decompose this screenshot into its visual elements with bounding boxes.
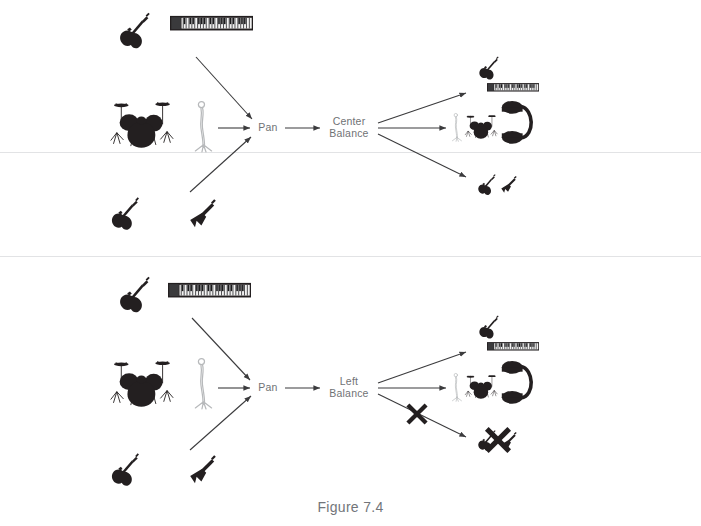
output-top-guitar-keyboard [479, 56, 539, 91]
figure-page: Pan Center Balance Pan Left Balance Figu… [0, 0, 701, 526]
output-center-drums-mic-headphones [452, 101, 531, 144]
output-guitar-icon [479, 315, 498, 338]
output-bottom-guitars [478, 174, 516, 195]
output-top-guitar-keyboard [479, 315, 539, 350]
output-center-drums-mic-headphones [452, 361, 531, 404]
output-headphones-icon [502, 361, 531, 404]
flying-v-guitar-icon [190, 199, 216, 227]
arrow-guitar-keyboard-to-pan [192, 318, 250, 380]
output-headphones-icon [502, 101, 531, 144]
pan-label-top: Pan [250, 121, 286, 133]
output-flying-v-icon [501, 176, 516, 193]
microphone-stand-icon [195, 359, 211, 409]
electric-guitar-icon [120, 277, 150, 313]
arrow-guitars-to-pan [190, 137, 251, 192]
mute-x-icon-output [487, 429, 509, 451]
output-bottom-guitars [478, 429, 516, 451]
arrow-balance-to-output-top [378, 352, 466, 383]
arrow-guitar-keyboard-to-pan [196, 57, 252, 119]
keyboard-icon [168, 283, 251, 298]
keyboard-icon [170, 16, 253, 31]
center-balance-label: Center Balance [319, 115, 379, 139]
arrow-balance-to-output-top [378, 93, 466, 123]
output-keyboard-icon [487, 83, 539, 91]
bass-guitar-icon [112, 197, 139, 229]
left-balance-label: Left Balance [319, 375, 379, 399]
arrow-guitars-to-pan [190, 396, 251, 450]
diagram-canvas [0, 0, 701, 526]
output-keyboard-icon [487, 342, 539, 350]
output-bass-guitar-icon [478, 174, 495, 195]
bass-guitar-icon [112, 453, 139, 485]
electric-guitar-icon [120, 13, 150, 49]
output-microphone-icon [452, 373, 461, 401]
mute-x-icon-arrow [408, 405, 426, 423]
output-drum-kit-icon [465, 375, 497, 399]
flying-v-guitar-icon [190, 455, 216, 483]
drum-kit-icon [111, 361, 174, 406]
output-microphone-icon [452, 113, 461, 141]
microphone-stand-icon [195, 102, 211, 152]
drum-kit-icon [111, 102, 174, 147]
figure-caption: Figure 7.4 [0, 499, 701, 515]
output-drum-kit-icon [465, 115, 497, 139]
output-guitar-icon [479, 56, 498, 79]
pan-label-bottom: Pan [250, 381, 286, 393]
